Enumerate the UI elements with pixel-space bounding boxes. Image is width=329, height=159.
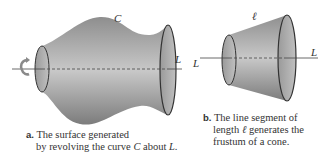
segment-label-ell: ℓ [252, 10, 257, 22]
caption-a-line1: The surface generated [36, 129, 129, 140]
frustum-of-cone [200, 15, 318, 101]
caption-a-line2-mid: about [140, 141, 169, 152]
caption-a-line2-prefix: by revolving the curve [36, 141, 133, 152]
caption-b-line2-prefix: length [213, 124, 242, 135]
caption-b-line2-suffix: generates the [246, 124, 304, 135]
caption-a: a. The surface generated by revolving th… [26, 129, 177, 153]
surface-of-revolution [12, 17, 182, 125]
caption-b-line1: The line segment of [214, 112, 298, 123]
rotation-arrow-icon [21, 57, 30, 74]
right-ellipse-a [160, 25, 176, 115]
caption-b: b. The line segment of length ℓ generate… [203, 112, 304, 148]
small-ellipse-b [222, 35, 236, 85]
caption-a-end: . [175, 141, 178, 152]
caption-a-tag: a. [26, 129, 34, 140]
axis-label-a: L [174, 53, 181, 65]
axis-label-b-left: L [192, 57, 199, 69]
axis-label-b-right: L [310, 46, 317, 58]
caption-b-line3: frustum of a cone. [203, 136, 304, 148]
caption-b-tag: b. [203, 112, 211, 123]
curve-label-c: C [114, 12, 122, 24]
